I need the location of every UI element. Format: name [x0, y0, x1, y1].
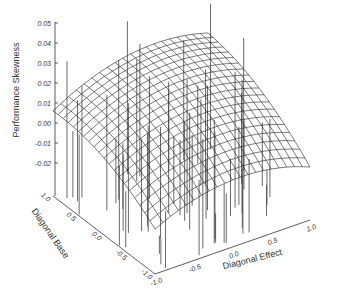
y-tick-label: 0.0: [91, 230, 103, 242]
z-tick-label: -0.02: [35, 160, 51, 167]
x-tick-label: 0.5: [267, 236, 279, 246]
x-tick-label: 1.0: [305, 223, 317, 233]
data-stems: [67, 4, 270, 268]
y-tick-label: -0.5: [115, 248, 129, 261]
z-tick-label: -0.01: [35, 140, 51, 147]
z-tick-label: 0.03: [37, 60, 51, 67]
x-axis-label: Diagonal Effect: [222, 247, 284, 272]
surface-plot: 0.050.040.030.020.010.00-0.01-0.02-1.0-0…: [0, 0, 340, 293]
z-tick-label: 0.00: [37, 120, 51, 127]
y-tick-label: 0.5: [65, 211, 77, 223]
y-axis-label: Diagonal Base: [30, 206, 72, 260]
fitted-surface-mesh: [53, 33, 310, 229]
y-tick-label: 1.0: [40, 191, 52, 203]
z-tick-label: 0.04: [37, 40, 51, 47]
x-tick-label: -0.5: [188, 263, 202, 274]
z-tick-label: 0.05: [37, 20, 51, 27]
z-axis-label: Performance Skewness: [11, 42, 21, 138]
z-tick-label: 0.01: [37, 100, 51, 107]
z-tick-label: 0.02: [37, 80, 51, 87]
